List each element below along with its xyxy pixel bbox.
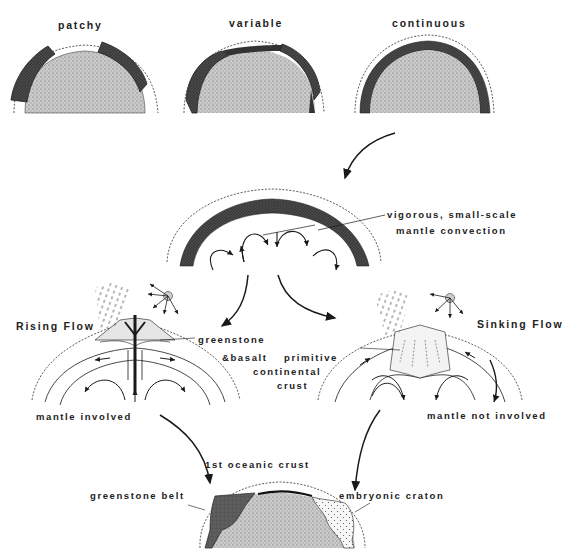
label-continental: continental bbox=[253, 366, 321, 377]
label-rising-flow: Rising Flow bbox=[16, 320, 95, 332]
label-continuous: continuous bbox=[392, 17, 467, 29]
label-convection-line2: mantle convection bbox=[396, 225, 507, 236]
flow-arrow-to-rising bbox=[222, 275, 248, 326]
label-embryonic-craton: embryonic craton bbox=[339, 490, 444, 501]
label-primitive: primitive bbox=[284, 352, 338, 363]
label-basalt: &basalt bbox=[222, 352, 268, 363]
label-sinking-flow: Sinking Flow bbox=[477, 318, 563, 330]
diagram-canvas bbox=[0, 0, 568, 560]
panel-patchy bbox=[11, 42, 158, 113]
flow-arrow-top bbox=[345, 133, 395, 178]
flow-arrow-to-sinking bbox=[278, 275, 335, 318]
label-mantle-involved: mantle involved bbox=[36, 411, 132, 422]
panel-convection bbox=[167, 189, 385, 270]
label-first-oceanic-crust: 1st oceanic crust bbox=[205, 459, 310, 470]
flow-arrow-rising-to-result bbox=[160, 415, 210, 483]
label-greenstone-belt: greenstone belt bbox=[90, 490, 185, 501]
label-patchy: patchy bbox=[58, 19, 103, 31]
panel-continuous bbox=[355, 35, 494, 113]
panel-sinking-flow bbox=[318, 291, 522, 402]
label-convection-line1: vigorous, small-scale bbox=[387, 209, 517, 220]
label-greenstone: greenstone bbox=[198, 334, 265, 345]
label-crust: crust bbox=[277, 380, 308, 391]
panel-variable bbox=[184, 41, 324, 113]
flow-arrow-sinking-to-result bbox=[355, 410, 380, 490]
label-variable: variable bbox=[229, 17, 283, 29]
label-mantle-not-involved: mantle not involved bbox=[427, 410, 547, 421]
